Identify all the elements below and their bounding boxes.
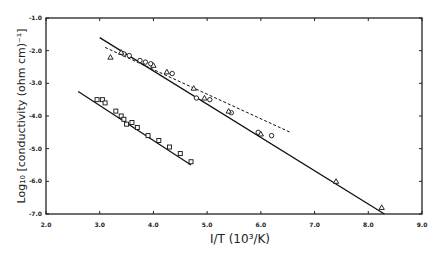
- upper-fit-dashed: [105, 47, 290, 132]
- plot-frame: [46, 18, 422, 214]
- square-marker: [130, 121, 134, 125]
- square-marker: [157, 139, 161, 143]
- y-tick-label: -3.0: [29, 79, 42, 86]
- square-marker: [103, 101, 107, 105]
- y-axis-label: Log₁₀ [conductivity (ohm cm)⁻¹]: [15, 28, 28, 203]
- circle-marker: [208, 97, 212, 101]
- x-tick-label: 2.0: [41, 221, 52, 228]
- triangle-marker: [379, 205, 384, 210]
- data-points: [95, 50, 384, 210]
- circle-marker: [138, 58, 142, 62]
- square-marker: [122, 117, 126, 121]
- triangle-marker: [164, 69, 169, 74]
- x-tick-label: 6.0: [256, 221, 267, 228]
- x-axis-ticks: 2.03.04.05.06.07.08.09.0: [41, 18, 428, 228]
- circle-marker: [170, 71, 174, 75]
- circle-marker: [143, 60, 147, 64]
- circle-marker: [194, 96, 198, 100]
- square-marker: [189, 160, 193, 164]
- triangle-marker: [333, 179, 338, 184]
- square-marker: [168, 145, 172, 149]
- x-tick-label: 5.0: [202, 221, 213, 228]
- square-marker: [125, 122, 129, 126]
- x-axis-label: I/T (10³/K): [210, 232, 270, 246]
- lower-fit-solid: [78, 92, 191, 166]
- y-tick-label: -5.0: [29, 145, 42, 152]
- square-marker: [178, 152, 182, 156]
- plot-border: [46, 18, 422, 214]
- conductivity-chart: 2.03.04.05.06.07.08.09.0 -1.0-2.0-3.0-4.…: [0, 0, 438, 257]
- y-tick-label: -1.0: [29, 14, 42, 21]
- triangle-marker: [202, 95, 207, 100]
- x-tick-label: 7.0: [309, 221, 320, 228]
- x-tick-label: 3.0: [94, 221, 105, 228]
- square-marker: [114, 109, 118, 113]
- triangle-marker: [191, 86, 196, 91]
- x-tick-label: 8.0: [363, 221, 374, 228]
- y-tick-label: -2.0: [29, 47, 42, 54]
- y-tick-label: -6.0: [29, 177, 42, 184]
- circle-marker: [269, 133, 273, 137]
- square-marker: [135, 125, 139, 129]
- square-marker: [95, 98, 99, 102]
- x-tick-label: 4.0: [148, 221, 159, 228]
- x-tick-label: 9.0: [417, 221, 428, 228]
- square-marker: [146, 134, 150, 138]
- circle-marker: [127, 53, 131, 57]
- y-tick-label: -7.0: [29, 210, 42, 217]
- y-tick-label: -4.0: [29, 112, 42, 119]
- triangle-marker: [108, 55, 113, 60]
